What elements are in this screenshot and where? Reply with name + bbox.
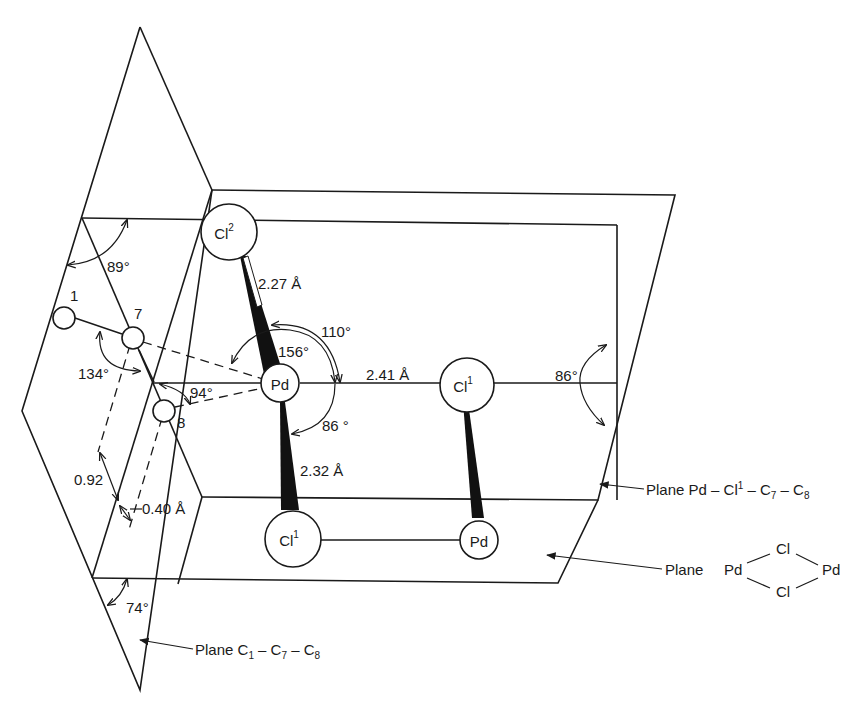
bond-c1-c7 — [75, 318, 122, 334]
svg-text:1: 1 — [70, 287, 78, 304]
svg-text:Cl: Cl — [776, 583, 790, 600]
bond-c7-c8 — [139, 350, 154, 382]
pointer-plane-pd-cl1-c7-c8 — [600, 484, 644, 489]
plane-c1-c7-c8 — [22, 27, 212, 690]
atom-c7: 7 — [122, 305, 144, 349]
label-plane-pd-cl1-c7-c8: Plane Pd – Cl1 – C7 – C8 — [646, 480, 810, 501]
svg-text:Plane: Plane — [665, 561, 703, 578]
angle-110: 110° — [321, 323, 351, 340]
label-plane-c1-c7-c8: Plane C1 – C7 – C8 — [195, 641, 321, 661]
svg-text:Pd: Pd — [271, 376, 289, 393]
angle-156: 156° — [278, 343, 309, 360]
atom-cl1-right: Cl1 — [440, 358, 494, 412]
atom-pd-center: Pd — [261, 364, 299, 402]
angle-134: 134° — [78, 365, 109, 382]
atom-cl1-bottom: Cl1 — [265, 511, 321, 567]
distance-040: 0.40 Å — [142, 500, 185, 517]
atom-cl2: Cl2 — [201, 204, 257, 260]
atom-c1: 1 — [53, 287, 78, 329]
angle-arc-74 — [108, 579, 127, 605]
wedge-pd-cl1-bottom — [280, 402, 299, 510]
atom-pd-bottom: Pd — [460, 521, 498, 559]
label-plane-pd2cl2: Plane Pd Cl Pd Cl — [665, 540, 840, 600]
pointer-plane-c1-c7-c8 — [140, 640, 193, 649]
svg-text:7: 7 — [134, 305, 142, 322]
angle-arc-86-right — [580, 345, 606, 425]
plane-pd-cl1-c7-c8 — [82, 190, 675, 500]
bond-length-pd-cl2: 2.27 Å — [258, 275, 301, 292]
angle-94: 94° — [190, 384, 213, 401]
dashed-c8-pd — [175, 388, 263, 407]
wedge-pd-cl2 — [240, 256, 282, 374]
angle-89: 89° — [107, 258, 130, 275]
svg-text:Pd: Pd — [470, 533, 488, 550]
bond-length-pd-cl1-bottom: 2.32 Å — [300, 462, 343, 479]
wedge-cl1-pd-bottom — [463, 402, 484, 518]
svg-text:Cl: Cl — [776, 540, 790, 557]
dashed-c7-normal — [98, 345, 130, 452]
distance-092: 0.92 — [74, 471, 103, 488]
angle-86-inner: 86 ° — [322, 417, 349, 434]
molecular-geometry-diagram: Cl2 Pd Cl1 Cl1 Pd 1 7 8 2.27 Å 2.41 Å 2.… — [0, 0, 867, 724]
distance-arrow-040 — [120, 506, 130, 520]
svg-text:8: 8 — [177, 414, 185, 431]
angle-86-right: 86° — [555, 367, 578, 384]
dashed-c7-pd — [143, 342, 263, 379]
bond-length-pd-cl1: 2.41 Å — [366, 366, 409, 383]
pointer-plane-pd2cl2 — [547, 555, 662, 569]
svg-text:Pd: Pd — [822, 561, 840, 578]
svg-text:Pd: Pd — [724, 561, 742, 578]
angle-74: 74° — [126, 599, 149, 616]
